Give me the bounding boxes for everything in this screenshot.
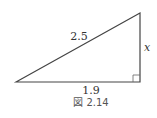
- hypotenuse-label: 2.5: [70, 30, 88, 43]
- triangle-diagram: 2.5 x 1.9 図 2.14: [0, 0, 157, 118]
- height-label: x: [144, 41, 151, 54]
- figure-caption: 図 2.14: [73, 97, 108, 108]
- right-triangle: [16, 13, 140, 82]
- base-label: 1.9: [82, 84, 100, 97]
- right-angle-marker: [133, 75, 140, 82]
